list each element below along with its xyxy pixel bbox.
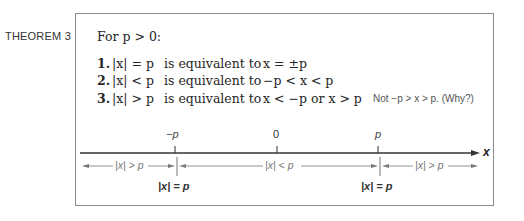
region-label-left: |x| > p <box>113 159 146 171</box>
axis-arrowhead-icon <box>471 150 480 156</box>
region-label-middle: |x| < p <box>263 159 296 171</box>
tick-label-p: p <box>375 128 381 140</box>
region-label-right: |x| > p <box>413 159 446 171</box>
tick-label-neg-p: −p <box>166 128 179 140</box>
axis-label: x <box>483 145 490 159</box>
boundary-label-neg-p: |x| = p <box>158 180 190 192</box>
tick-label-zero: 0 <box>273 128 279 140</box>
boundary-label-p: |x| = p <box>361 180 393 192</box>
number-line-graphic <box>0 0 524 221</box>
